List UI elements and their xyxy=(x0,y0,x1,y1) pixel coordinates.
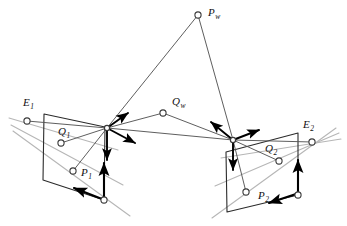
label-q2-base: Q xyxy=(265,142,273,154)
labels-group: PwQwE1E2Q1P1Q2P2 xyxy=(22,6,314,204)
epipole-e1[interactable] xyxy=(24,118,30,124)
plane-axis-right-left xyxy=(269,194,296,203)
label-e1: E1 xyxy=(22,96,34,111)
label-e2: E2 xyxy=(302,118,314,133)
ray-left-center-to-p1 xyxy=(73,128,107,171)
axis-arrow-right-up-right xyxy=(233,130,259,140)
epipolar-geometry-figure: PwQwE1E2Q1P1Q2P2 xyxy=(0,0,347,226)
label-q1-base: Q xyxy=(58,125,66,137)
camera-center-right[interactable] xyxy=(230,137,235,142)
world-point-qw[interactable] xyxy=(160,110,166,116)
label-p2-subscript: 2 xyxy=(265,195,269,204)
epipole-e2[interactable] xyxy=(309,139,315,145)
label-p1-base: P xyxy=(80,166,88,178)
label-q1-subscript: 1 xyxy=(67,131,71,140)
ray-qw-to-left-center xyxy=(107,113,163,128)
label-q2: Q2 xyxy=(265,142,278,157)
camera-center-left[interactable] xyxy=(104,125,109,130)
plane-corner-left-br[interactable] xyxy=(101,197,107,203)
ray-pw-to-right-center xyxy=(198,15,233,140)
ray-qw-to-right-center xyxy=(163,113,233,140)
world-point-pw[interactable] xyxy=(195,12,201,18)
diagram-canvas: PwQwE1E2Q1P1Q2P2 xyxy=(0,0,347,226)
plane-corner-right-br[interactable] xyxy=(295,192,301,198)
image-point-q1[interactable] xyxy=(58,140,64,146)
plane-axis-left-left xyxy=(74,188,102,199)
ray-pw-to-left-center xyxy=(107,15,198,128)
label-e1-base: E xyxy=(22,96,30,108)
label-e2-subscript: 2 xyxy=(310,124,314,133)
label-qw-base: Q xyxy=(172,95,180,107)
label-p2-base: P xyxy=(257,189,265,201)
axis-arrow-right-up-left xyxy=(211,122,233,140)
label-p1-subscript: 1 xyxy=(88,172,92,181)
label-pw-base: P xyxy=(207,6,215,18)
label-p1: P1 xyxy=(80,166,92,181)
label-q1: Q1 xyxy=(58,125,70,140)
label-qw-subscript: w xyxy=(181,101,186,110)
projection-rays-group xyxy=(27,15,312,192)
label-pw: Pw xyxy=(207,6,220,21)
label-q2-subscript: 2 xyxy=(274,148,278,157)
label-p2: P2 xyxy=(257,189,269,204)
image-point-p1[interactable] xyxy=(70,168,76,174)
image-point-p2[interactable] xyxy=(243,189,249,195)
image-point-q2[interactable] xyxy=(276,158,282,164)
label-pw-subscript: w xyxy=(215,12,220,21)
label-e1-subscript: 1 xyxy=(30,102,34,111)
label-e2-base: E xyxy=(302,118,310,130)
label-qw: Qw xyxy=(172,95,186,110)
